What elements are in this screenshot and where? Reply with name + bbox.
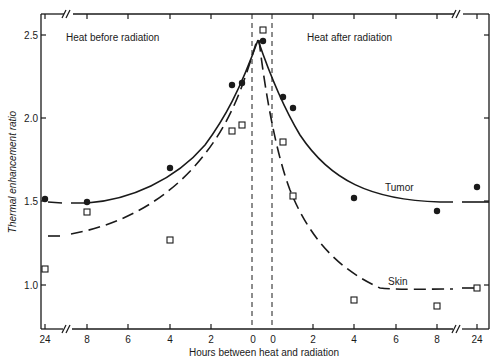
tumor-point [260, 38, 266, 44]
tumor-markers [42, 38, 480, 214]
y-tick-label: 1.0 [24, 280, 38, 291]
y-axis-ticks [41, 35, 489, 285]
tumor-curve-label: Tumor [385, 182, 414, 193]
y-tick-label: 2.5 [24, 30, 38, 41]
skin-point [474, 285, 480, 291]
tumor-point [42, 196, 48, 202]
skin-point [167, 237, 173, 243]
y-tick-label: 2.0 [24, 113, 38, 124]
tumor-point [229, 82, 235, 88]
tumor-point [434, 208, 440, 214]
tumor-point [280, 94, 286, 100]
skin-curve [48, 40, 478, 289]
tumor-point [290, 105, 296, 111]
skin-curve-label: Skin [388, 276, 407, 287]
x-tick-label: 0 [270, 334, 276, 345]
x-tick-label: 8 [434, 334, 440, 345]
x-tick-label: 6 [125, 334, 131, 345]
skin-point [239, 122, 245, 128]
x-axis-title: Hours between heat and radiation [189, 347, 339, 358]
heat-before-annotation: Heat before radiation [66, 32, 159, 43]
x-tick-label: 6 [393, 334, 399, 345]
x-tick-label: 4 [351, 334, 357, 345]
tumor-curve [48, 40, 489, 203]
skin-markers [42, 27, 480, 309]
x-tick-label: 4 [167, 334, 173, 345]
x-tick-label: 8 [84, 334, 90, 345]
y-axis-title: Thermal enhancement ratio [7, 110, 18, 233]
tumor-point [84, 199, 90, 205]
y-tick-label: 1.5 [24, 196, 38, 207]
skin-point [84, 209, 90, 215]
tumor-point [167, 165, 173, 171]
skin-point [42, 266, 48, 272]
tumor-point [351, 195, 357, 201]
x-tick-label: 0 [250, 334, 256, 345]
x-tick-label: 2 [208, 334, 214, 345]
skin-point [280, 139, 286, 145]
x-tick-label: 24 [39, 334, 51, 345]
x-axis-labels: 24 8 6 4 2 0 0 2 4 6 8 24 [39, 334, 483, 345]
y-axis-labels: 2.5 2.0 1.5 1.0 [24, 30, 38, 291]
skin-point [351, 297, 357, 303]
x-tick-label: 24 [471, 334, 483, 345]
thermal-enhancement-chart: 2.5 2.0 1.5 1.0 Thermal enhancement rati… [0, 0, 494, 361]
skin-point [260, 27, 266, 33]
x-tick-label: 2 [310, 334, 316, 345]
heat-after-annotation: Heat after radiation [307, 32, 392, 43]
skin-point [229, 128, 235, 134]
skin-point [434, 303, 440, 309]
tumor-point [239, 80, 245, 86]
skin-point [290, 193, 296, 199]
tumor-point [474, 184, 480, 190]
